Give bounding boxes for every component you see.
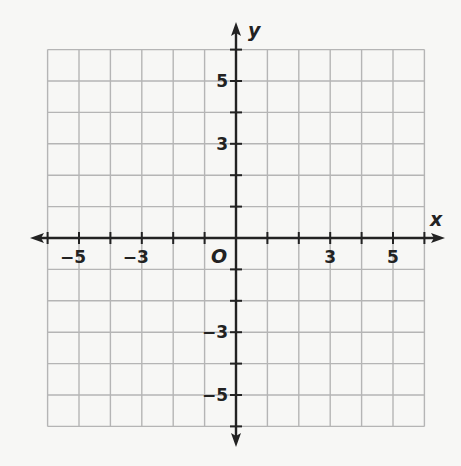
x-tick-label: 5: [387, 247, 399, 267]
x-tick-label: 3: [324, 247, 336, 267]
x-tick-label: −3: [123, 247, 149, 267]
origin-label: O: [211, 245, 227, 267]
coordinate-plane: −5−33553−3−5 x y O: [0, 0, 461, 466]
x-axis-label: x: [429, 208, 443, 230]
axes: [30, 22, 445, 447]
x-tick-label: −5: [60, 247, 86, 267]
y-tick-label: −3: [202, 322, 228, 342]
y-tick-label: 3: [216, 134, 228, 154]
y-tick-label: 5: [216, 71, 228, 91]
y-tick-label: −5: [202, 385, 228, 405]
y-axis-label: y: [248, 19, 262, 41]
